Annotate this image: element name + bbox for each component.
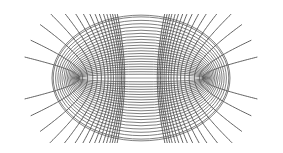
elliptic-coordinates-diagram [0,0,283,153]
diagram-canvas [0,0,283,153]
confocal-hyperbolas [25,0,258,153]
hyperbola-line [89,0,114,78]
hyperbola-line [169,0,194,78]
confocal-ellipses [52,15,230,141]
